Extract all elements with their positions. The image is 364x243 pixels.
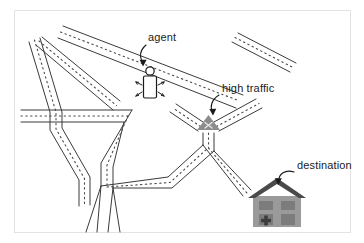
annotation-destination: destination <box>275 159 352 185</box>
destination-label: destination <box>297 159 352 171</box>
road-west-cross <box>21 110 132 122</box>
road-traffic-nw-arm <box>170 104 203 131</box>
house-window-top-left-icon <box>259 201 273 210</box>
agent-body-icon <box>144 76 157 98</box>
house-window-bottom-right-icon <box>281 214 295 225</box>
map-diagram: agent high traffic destination <box>0 0 364 243</box>
agent-label: agent <box>148 31 176 43</box>
road-south-east-route <box>101 145 214 188</box>
road-traffic-ne-arm <box>214 99 262 131</box>
agent-head-icon <box>146 67 154 75</box>
annotation-high-traffic: high traffic <box>209 82 274 116</box>
destination-marker[interactable] <box>248 178 306 227</box>
road-south-fork <box>86 186 120 232</box>
map-canvas: agent high traffic destination <box>0 0 364 243</box>
high-traffic-marker[interactable] <box>197 115 220 130</box>
high-traffic-label: high traffic <box>222 82 275 94</box>
road-far-south-east <box>203 145 251 196</box>
high-traffic-leader-arrowhead-icon <box>209 109 216 116</box>
agent-marker[interactable] <box>136 67 164 98</box>
house-window-top-right-icon <box>281 201 295 210</box>
annotation-agent: agent <box>140 31 177 67</box>
road-ne-middle <box>36 37 120 110</box>
traffic-triangle-icon <box>197 115 220 130</box>
road-top-right <box>232 33 296 72</box>
